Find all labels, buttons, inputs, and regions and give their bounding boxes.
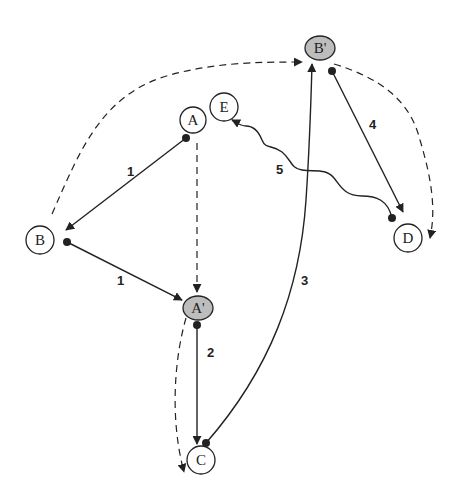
node-d-label: D [403,230,414,246]
edge-bprime-to-d-dashed [334,64,433,238]
edge-label-d-e: 5 [276,162,283,177]
node-b-prime-label: B' [314,40,327,56]
edge-label-bprime-d: 4 [369,117,377,132]
node-b[interactable]: B [26,226,54,254]
node-e-label: E [219,99,228,115]
node-b-label: B [35,232,45,248]
edge-bprime-to-d [332,71,403,212]
edge-a-to-b [66,138,186,230]
edge-b-to-bprime-dashed [52,62,302,214]
edge-d-to-e [232,120,392,218]
diagram-svg: 1 1 2 3 4 5 A E B' [0,0,463,502]
node-a-label: A [188,112,199,128]
edge-label-c-bprime: 3 [301,273,308,288]
node-d[interactable]: D [394,224,422,252]
node-a-prime[interactable]: A' [183,296,213,320]
node-e[interactable]: E [210,93,238,121]
edge-aprime-to-c-dashed [175,318,186,472]
node-a[interactable]: A [180,107,206,133]
node-a-prime-label: A' [191,300,205,316]
edge-label-b-aprime: 1 [117,273,124,288]
node-c[interactable]: C [187,446,215,474]
diagram-canvas: 1 1 2 3 4 5 A E B' [0,0,463,502]
node-b-prime[interactable]: B' [305,36,335,60]
edge-label-aprime-c: 2 [207,345,214,360]
node-c-label: C [196,452,206,468]
edge-label-a-b: 1 [127,164,134,179]
edge-b-to-aprime [67,242,182,300]
